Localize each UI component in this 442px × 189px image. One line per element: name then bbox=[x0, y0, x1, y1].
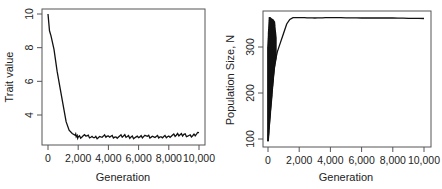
x-tick-label: 0 bbox=[45, 152, 51, 164]
x-tick-label: 2,000 bbox=[65, 152, 91, 164]
y-tick-label: 300 bbox=[244, 38, 256, 56]
population-size-chart: 100200300 02,0004,0006,0008,00010,000 Ge… bbox=[221, 0, 442, 189]
y-axis: 100200300 bbox=[244, 38, 263, 148]
y-tick-label: 4 bbox=[23, 112, 35, 118]
y-tick-label: 100 bbox=[244, 130, 256, 148]
x-axis-label: Generation bbox=[96, 171, 150, 183]
trait-value-chart: 46810 02,0004,0006,0008,00010,000 Genera… bbox=[0, 0, 221, 189]
x-tick-label: 10,000 bbox=[408, 154, 440, 166]
x-axis: 02,0004,0006,0008,00010,000 bbox=[265, 147, 440, 166]
x-tick-label: 8,000 bbox=[156, 152, 182, 164]
x-tick-label: 10,000 bbox=[183, 152, 215, 164]
x-tick-label: 4,000 bbox=[95, 152, 121, 164]
x-tick-label: 8,000 bbox=[380, 154, 406, 166]
y-axis: 46810 bbox=[23, 8, 42, 118]
x-tick-label: 4,000 bbox=[317, 154, 343, 166]
x-tick-label: 6,000 bbox=[125, 152, 151, 164]
y-tick-label: 200 bbox=[244, 84, 256, 102]
x-tick-label: 2,000 bbox=[286, 154, 312, 166]
y-tick-label: 10 bbox=[23, 8, 35, 20]
y-tick-label: 6 bbox=[23, 78, 35, 84]
y-tick-label: 8 bbox=[23, 45, 35, 51]
trait-line bbox=[48, 14, 199, 139]
x-axis-label: Generation bbox=[319, 171, 373, 183]
population-line bbox=[268, 18, 424, 142]
y-axis-label: Trait value bbox=[3, 52, 15, 103]
x-tick-label: 6,000 bbox=[348, 154, 374, 166]
plot-frame bbox=[263, 11, 431, 147]
y-axis-label: Population Size, N bbox=[224, 35, 236, 126]
x-tick-label: 0 bbox=[265, 154, 271, 166]
x-axis: 02,0004,0006,0008,00010,000 bbox=[45, 145, 215, 164]
